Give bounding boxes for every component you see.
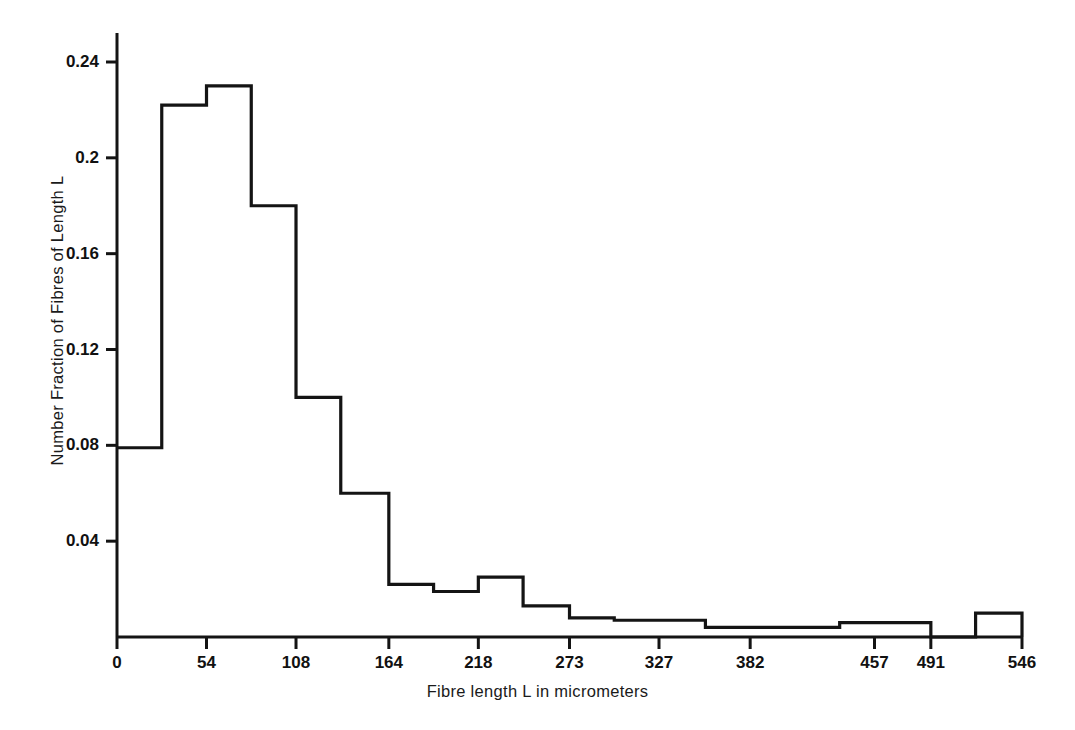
- x-tick-label: 382: [736, 653, 764, 673]
- x-tick-label: 108: [282, 653, 310, 673]
- x-tick-label: 546: [1008, 653, 1036, 673]
- x-axis-ticks: [117, 637, 1022, 649]
- x-tick-label: 457: [860, 653, 888, 673]
- x-tick-label: 327: [645, 653, 673, 673]
- x-axis-title: Fibre length L in micrometers: [0, 682, 1075, 701]
- histogram-plot: [0, 0, 1075, 730]
- x-tick-label: 54: [197, 653, 216, 673]
- y-axis-ticks: [106, 62, 117, 541]
- x-tick-label: 0: [112, 653, 121, 673]
- histogram-outline: [117, 86, 1022, 637]
- y-axis-title: Number Fraction of Fibres of Length L: [48, 41, 67, 601]
- chart-figure: 054108164218273327382457491546 0.040.080…: [0, 0, 1075, 730]
- histogram-steps: [117, 86, 1022, 637]
- x-tick-label: 273: [555, 653, 583, 673]
- x-tick-label: 491: [917, 653, 945, 673]
- x-tick-label: 218: [464, 653, 492, 673]
- x-tick-label: 164: [375, 653, 403, 673]
